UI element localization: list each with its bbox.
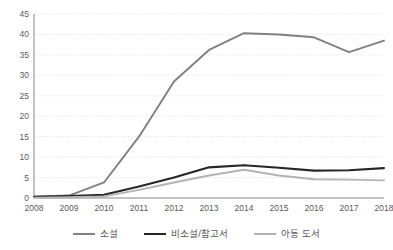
series-line [34, 33, 384, 197]
x-tick-label: 2017 [340, 203, 359, 213]
line-chart: 051015202530354045 200820092010201120122… [0, 0, 393, 250]
x-tick-label: 2010 [95, 203, 114, 213]
y-tick-label: 0 [24, 193, 29, 203]
legend-line-swatch [254, 233, 276, 235]
legend-line-swatch [73, 233, 95, 235]
legend-label: 소설 [100, 229, 118, 239]
y-tick-label: 10 [20, 152, 30, 162]
x-tick-label: 2012 [165, 203, 184, 213]
y-tick-label: 45 [20, 9, 30, 19]
legend-line-swatch [144, 233, 166, 235]
x-tick-label: 2016 [305, 203, 324, 213]
y-tick-label: 5 [24, 173, 29, 183]
x-tick-label: 2015 [270, 203, 289, 213]
y-tick-label: 40 [20, 29, 30, 39]
y-tick-label: 15 [20, 132, 30, 142]
chart-legend: 소설비소설/참고서아동 도서 [0, 222, 393, 246]
y-axis-tick-labels: 051015202530354045 [20, 9, 30, 203]
x-tick-label: 2008 [25, 203, 44, 213]
x-tick-label: 2011 [130, 203, 149, 213]
x-tick-label: 2009 [60, 203, 79, 213]
x-tick-label: 2018 [375, 203, 393, 213]
y-tick-label: 25 [20, 91, 30, 101]
y-tick-label: 30 [20, 70, 30, 80]
x-tick-label: 2013 [200, 203, 219, 213]
series-line [34, 170, 384, 198]
legend-item[interactable]: 비소설/참고서 [144, 229, 228, 239]
y-tick-label: 20 [20, 111, 30, 121]
data-series [34, 33, 384, 197]
plot-area: 051015202530354045 200820092010201120122… [0, 0, 393, 218]
gridlines [34, 14, 384, 178]
x-tick-label: 2014 [235, 203, 254, 213]
series-line [34, 165, 384, 196]
x-axis-tick-labels: 2008200920102011201220132014201520162017… [25, 203, 393, 213]
legend-item[interactable]: 소설 [73, 229, 118, 239]
legend-label: 아동 도서 [281, 229, 320, 239]
legend-label: 비소설/참고서 [171, 229, 228, 239]
y-tick-label: 35 [20, 50, 30, 60]
chart-svg: 051015202530354045 200820092010201120122… [0, 0, 393, 218]
legend-item[interactable]: 아동 도서 [254, 229, 320, 239]
